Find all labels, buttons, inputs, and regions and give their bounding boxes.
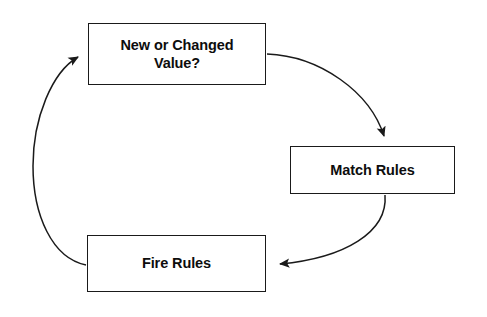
node-label: New or Changed Value? <box>116 36 237 72</box>
node-label: Fire Rules <box>138 254 215 272</box>
connector-fire-to-value <box>33 57 86 265</box>
diagram-canvas: New or Changed Value? Match Rules Fire R… <box>0 0 487 317</box>
node-label: Match Rules <box>326 161 418 179</box>
node-match-rules[interactable]: Match Rules <box>290 146 455 194</box>
node-new-or-changed-value[interactable]: New or Changed Value? <box>88 23 266 85</box>
node-fire-rules[interactable]: Fire Rules <box>87 235 266 292</box>
connector-match-to-fire <box>280 195 385 264</box>
connector-value-to-match <box>267 54 384 136</box>
